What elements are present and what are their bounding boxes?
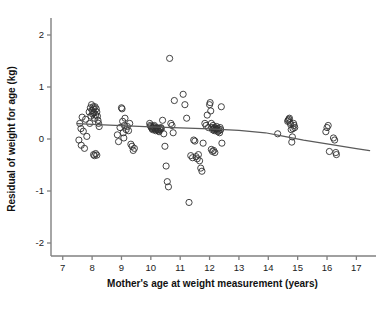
data-point bbox=[325, 122, 331, 128]
data-point bbox=[204, 112, 210, 118]
data-point bbox=[159, 117, 165, 123]
data-point bbox=[180, 91, 186, 97]
y-tick-label: 2 bbox=[39, 29, 44, 40]
data-point bbox=[162, 143, 168, 149]
x-tick-label: 16 bbox=[322, 262, 333, 273]
data-point bbox=[170, 130, 176, 136]
x-tick-label: 17 bbox=[351, 262, 362, 273]
data-point bbox=[219, 140, 225, 146]
y-tick-label: -2 bbox=[36, 237, 44, 248]
y-tick-label: 1 bbox=[39, 81, 44, 92]
x-tick-label: 15 bbox=[292, 262, 303, 273]
data-point bbox=[84, 133, 90, 139]
data-point bbox=[125, 128, 131, 134]
data-points-group bbox=[76, 55, 340, 205]
data-point bbox=[218, 104, 224, 110]
x-tick-label: 13 bbox=[234, 262, 245, 273]
data-point bbox=[323, 129, 329, 135]
data-point bbox=[200, 140, 206, 146]
data-point bbox=[332, 137, 338, 143]
data-point bbox=[182, 102, 188, 108]
figure-panel: 210-1-27891011121314151617Mother's age a… bbox=[0, 0, 381, 316]
data-point bbox=[171, 97, 177, 103]
scatter-plot: 210-1-27891011121314151617Mother's age a… bbox=[0, 0, 381, 316]
x-tick-label: 7 bbox=[60, 262, 65, 273]
x-tick-label: 12 bbox=[204, 262, 215, 273]
data-point bbox=[87, 120, 93, 126]
x-tick-label: 14 bbox=[263, 262, 274, 273]
x-axis-title: Mother's age at weight measurement (year… bbox=[107, 278, 318, 289]
y-axis-title: Residual of weight for age (kg) bbox=[6, 66, 17, 212]
data-point bbox=[208, 108, 214, 114]
x-tick-label: 11 bbox=[175, 262, 185, 273]
data-point bbox=[326, 148, 332, 154]
data-point bbox=[167, 55, 173, 61]
y-tick-label: -1 bbox=[36, 185, 44, 196]
x-tick-label: 9 bbox=[119, 262, 124, 273]
x-tick-label: 10 bbox=[146, 262, 157, 273]
data-point bbox=[186, 199, 192, 205]
data-point bbox=[114, 132, 120, 138]
data-point bbox=[163, 163, 169, 169]
y-tick-label: 0 bbox=[39, 133, 44, 144]
data-point bbox=[184, 115, 190, 121]
x-tick-label: 8 bbox=[89, 262, 94, 273]
